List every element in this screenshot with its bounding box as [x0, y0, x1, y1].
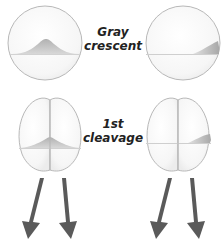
egg-left — [8, 6, 82, 80]
two-cell-left — [19, 98, 81, 171]
cell-left — [147, 98, 178, 171]
cell-right — [178, 98, 209, 171]
label-line: Gray — [80, 25, 146, 39]
cell-left — [19, 98, 50, 171]
label-first-cleavage: 1st cleavage — [80, 117, 146, 145]
label-line: 1st — [80, 117, 146, 131]
arrows-left — [22, 178, 77, 239]
egg-right — [146, 6, 220, 80]
diagram-canvas: Gray crescent 1st cleavage — [0, 0, 223, 241]
arrow-down-icon — [22, 178, 44, 239]
cell-right — [50, 98, 81, 171]
arrow-down-icon — [59, 178, 77, 239]
two-cell-right — [146, 98, 211, 171]
arrow-down-icon — [150, 178, 172, 239]
label-line: crescent — [80, 39, 146, 53]
arrows-right — [150, 178, 205, 239]
label-line: cleavage — [80, 131, 146, 145]
arrow-down-icon — [187, 178, 205, 239]
label-gray-crescent: Gray crescent — [80, 25, 146, 53]
